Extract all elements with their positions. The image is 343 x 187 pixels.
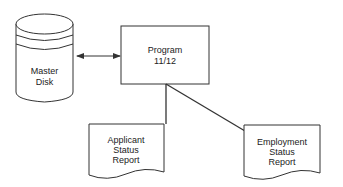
applicant-label-3: Report (112, 155, 140, 165)
applicant-label-1: Applicant (107, 135, 145, 145)
program-node: Program 11/12 (121, 26, 209, 84)
disk-icon (16, 24, 73, 102)
diagram-canvas: Master Disk Program 11/12 Applicant Stat… (0, 0, 343, 187)
employment-label-3: Report (268, 157, 296, 167)
employment-label-1: Employment (257, 137, 308, 147)
program-box (121, 26, 209, 84)
applicant-report-node: Applicant Status Report (89, 124, 164, 178)
program-label-1: Program (148, 45, 183, 55)
employment-label-2: Status (269, 147, 295, 157)
employment-report-node: Employment Status Report (244, 125, 320, 179)
applicant-label-2: Status (113, 145, 139, 155)
master-disk-label-1: Master (31, 66, 59, 76)
program-employment-line (166, 84, 245, 131)
program-label-2: 11/12 (154, 56, 176, 66)
disk-top-ellipse (16, 14, 73, 34)
master-disk-label-2: Disk (36, 77, 54, 87)
master-disk-node: Master Disk (16, 14, 73, 102)
